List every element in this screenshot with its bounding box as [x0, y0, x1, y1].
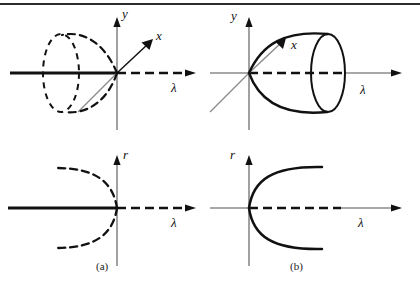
- panel-bottom-right: r λ (b): [210, 146, 420, 283]
- lambda-axis-arrowhead: [185, 69, 196, 76]
- label-lambda-axis: λ: [357, 215, 364, 230]
- stable-periodic-branch-upper: [249, 167, 322, 208]
- lambda-axis-arrowhead: [391, 69, 402, 76]
- caption-a: (a): [96, 260, 109, 273]
- stable-cone-lower-generator: [249, 73, 327, 113]
- caption-b: (b): [290, 260, 303, 273]
- x-axis-arrow-line: [117, 44, 148, 73]
- lambda-axis-arrowhead: [391, 204, 402, 211]
- stable-periodic-branch-lower: [249, 208, 322, 249]
- r-axis-arrowhead: [113, 155, 120, 165]
- unstable-periodic-branch-upper: [56, 168, 117, 208]
- lambda-axis-arrowhead: [185, 204, 196, 211]
- top-horizontal-rule: [0, 3, 420, 5]
- panel-top-left: y x λ: [0, 8, 210, 138]
- unstable-periodic-branch-lower: [56, 208, 117, 248]
- label-r-axis: r: [230, 147, 236, 162]
- r-axis-arrowhead: [245, 155, 252, 165]
- x-axis-arrow-line: [249, 42, 282, 73]
- figure-root: y x λ y x λ: [0, 0, 420, 283]
- label-r-axis: r: [123, 147, 129, 162]
- x-axis-oblique-line: [78, 73, 117, 112]
- stable-cone-upper-generator: [249, 33, 328, 73]
- label-lambda-axis: λ: [170, 80, 177, 95]
- x-axis-oblique-line: [210, 73, 249, 112]
- panel-top-right: y x λ: [210, 8, 420, 138]
- label-lambda-axis: λ: [359, 82, 366, 97]
- label-y-axis: y: [120, 6, 128, 21]
- unstable-cone-lower-generator: [64, 73, 117, 112]
- unstable-cone-upper-generator: [62, 34, 117, 73]
- y-axis-arrowhead: [113, 17, 120, 27]
- label-y-axis: y: [229, 8, 237, 23]
- label-x-axis: x: [155, 28, 162, 43]
- panel-bottom-left: r λ (a): [0, 146, 210, 283]
- label-x-axis: x: [290, 37, 297, 52]
- y-axis-arrowhead: [245, 17, 252, 27]
- label-lambda-axis: λ: [170, 215, 177, 230]
